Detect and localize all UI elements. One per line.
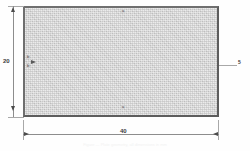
arrowhead-width-right [213,132,218,136]
extension-line-left-bottom [23,120,24,140]
extension-line-right-bottom [218,120,219,140]
extension-line-bottom-left [8,117,24,118]
arrowhead-inner-leader [31,60,36,64]
arrowhead-height-top [11,7,15,12]
annotation-tag-bottom-center: a [121,105,125,109]
dimension-value-width: 40 [120,128,126,134]
dimension-line-width [23,134,219,135]
dimension-value-height: 20 [3,58,9,64]
arrowhead-width-left [24,132,29,136]
dimension-line-height [13,6,14,117]
annotation-tag-top-center: a [121,9,125,13]
drawing-caption: Figure — Plate geometry, all dimensions … [0,142,250,147]
annotation-tag-left-upper: b [26,55,30,59]
dimension-value-right-edge: 5 [238,59,241,65]
technical-drawing-canvas: 20 40 5 a a b b Figure — Plate geometry,… [0,0,250,151]
annotation-tag-left-lower: b [26,64,30,68]
arrowhead-height-bottom [11,106,15,111]
rectangular-plate-shape [23,6,219,117]
extension-line-right [219,65,237,66]
